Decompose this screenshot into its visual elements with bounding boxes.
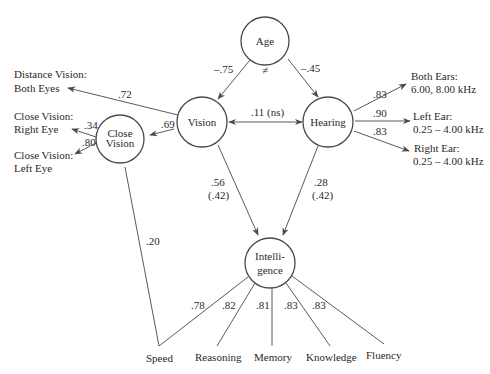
edge-intel-fluency [292,276,384,344]
edge-intel-knowledge [286,283,330,346]
label-close-right-1: Close Vision: [14,110,73,122]
label-left-ear-2: 0.25 – 4.00 kHz [413,123,484,135]
node-hearing: Hearing [303,97,353,147]
coef-hearing-both: .83 [373,88,387,100]
coef-hearing-left: .90 [373,107,387,119]
coef-intel-fluency: .83 [312,299,326,311]
label-reasoning: Reasoning [195,351,242,363]
indicator-labels: Distance Vision: Both Eyes Close Vision:… [14,68,484,364]
label-both-ears-1: Both Ears: [411,70,458,82]
coefficients: –.75 –.45 ≠ .11 (ns) .72 .69 .34 .80 .20… [82,62,387,311]
label-left-ear-1: Left Ear: [413,110,452,122]
coef-intel-reasoning: .82 [222,299,236,311]
label-close-left-1: Close Vision: [14,149,73,161]
coef-hearing-intel: .28 [314,176,328,188]
coef-close-speed: .20 [146,235,160,247]
node-intelligence-label-1: Intelli- [255,250,285,262]
node-intelligence-label-2: gence [257,264,283,276]
label-knowledge: Knowledge [306,351,357,363]
coef-age-neq: ≠ [262,64,268,76]
coef-intel-knowledge: .83 [284,299,298,311]
coef-intel-speed: .78 [191,299,205,311]
node-close-vision-label-2: Vision [106,137,135,149]
label-distance-vision-2: Both Eyes [14,82,60,94]
label-distance-vision-1: Distance Vision: [14,68,87,80]
coef-vision-hearing: .11 (ns) [251,106,285,119]
coef-vision-close: .69 [161,118,175,130]
coef-hearing-right: .83 [373,125,387,137]
label-close-right-2: Right Eye [14,123,58,135]
coef-close-right: .34 [84,119,98,131]
edge-intel-speed [159,277,248,346]
node-close-vision: Close Vision [96,115,144,163]
label-right-ear-1: Right Ear: [414,142,460,154]
coef-vision-intel-paren: (.42) [208,189,229,202]
label-both-ears-2: 6.00, 8.00 kHz [411,83,476,95]
coef-hearing-intel-paren: (.42) [312,189,333,202]
label-right-ear-2: 0.25 – 4.00 kHz [413,155,484,167]
edge-close-speed [125,167,159,346]
label-fluency: Fluency [366,349,402,361]
coef-vision-intel: .56 [211,176,225,188]
node-vision-label: Vision [188,116,217,128]
coef-close-left: .80 [82,136,96,148]
coef-vision-distance: .72 [118,88,132,100]
node-age-label: Age [256,35,274,47]
coef-age-vision: –.75 [213,63,234,75]
node-intelligence: Intelli- gence [245,238,295,288]
edges [68,59,410,346]
label-speed: Speed [146,352,173,364]
label-close-left-2: Left Eye [14,162,52,174]
coef-intel-memory: .81 [256,299,270,311]
node-vision: Vision [177,97,227,147]
label-memory: Memory [254,351,292,363]
coef-age-hearing: –.45 [300,62,321,74]
sem-diagram: Age Vision Hearing Close Vision Intelli-… [0,0,490,374]
node-hearing-label: Hearing [310,116,346,128]
node-age: Age [241,17,289,65]
edge-intel-reasoning [217,283,255,346]
